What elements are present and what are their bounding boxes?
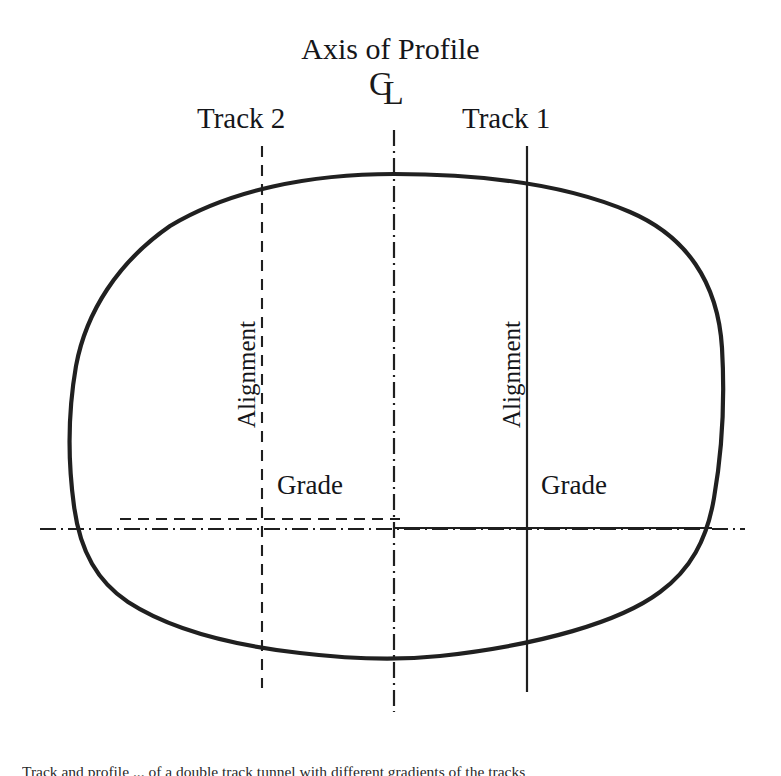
track-2-label: Track 2 bbox=[197, 104, 285, 133]
track-1-label: Track 1 bbox=[462, 104, 550, 133]
track-1-grade-label: Grade bbox=[541, 472, 607, 499]
centerline-symbol: C L bbox=[369, 67, 423, 119]
tunnel-outline-path bbox=[70, 174, 723, 658]
figure-title: Axis of Profile bbox=[0, 34, 781, 64]
track-2-grade-label: Grade bbox=[277, 472, 343, 499]
track-1-alignment-label: Alignment bbox=[499, 321, 524, 428]
centerline-l-glyph: L bbox=[383, 76, 404, 110]
figure-caption: Track and profile ... of a double track … bbox=[22, 762, 767, 776]
track-2-alignment-label: Alignment bbox=[234, 321, 259, 428]
tunnel-profile-figure: Axis of Profile C L Track 2 Track 1 Alig… bbox=[0, 0, 781, 776]
